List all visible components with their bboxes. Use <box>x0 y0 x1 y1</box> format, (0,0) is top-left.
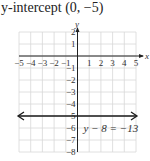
x-tick-label: −3 <box>38 58 48 68</box>
y-tick-label: −2 <box>66 75 76 85</box>
x-tick-label: 5 <box>134 58 139 68</box>
y-tick-label: −8 <box>66 147 76 157</box>
y-axis-label: y <box>74 19 79 29</box>
coordinate-plane: −5−4−3−2−11234521−1−2−3−45−6−7−8 y − 8 =… <box>0 0 150 161</box>
x-tick-label: −2 <box>49 58 59 68</box>
x-axis-label: x <box>144 51 149 61</box>
x-tick-label: 2 <box>99 58 104 68</box>
y-tick-label: −6 <box>66 123 76 133</box>
y-tick-label: −7 <box>66 135 76 145</box>
equation-label: y − 8 = −13 <box>83 122 139 134</box>
y-tick-label: −4 <box>66 99 76 109</box>
x-tick-label: 1 <box>87 58 92 68</box>
x-tick-label: 3 <box>110 58 115 68</box>
y-tick-label: −3 <box>66 87 76 97</box>
x-tick-label: 4 <box>122 58 127 68</box>
x-tick-label: −4 <box>26 58 36 68</box>
y-tick-label: 1 <box>71 39 76 49</box>
x-tick-label: −5 <box>14 58 24 68</box>
y-tick-label: −1 <box>66 63 76 73</box>
